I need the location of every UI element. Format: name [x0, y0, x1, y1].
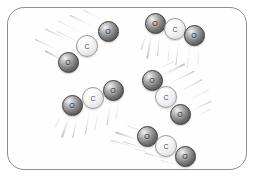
atom-symbol-label: C — [90, 95, 95, 102]
atom-symbol-label: O — [110, 87, 115, 94]
atom-carbon: C — [82, 87, 104, 109]
atom-oxygen: O — [145, 13, 166, 34]
atom-symbol-label: C — [84, 43, 89, 50]
atom-symbol-label: O — [144, 133, 149, 140]
atom-symbol-label: O — [69, 102, 74, 109]
atom-symbol-label: O — [105, 28, 110, 35]
atom-oxygen: O — [170, 104, 191, 125]
atom-carbon: C — [76, 35, 98, 57]
atom-symbol-label: O — [191, 32, 196, 39]
atom-carbon: C — [155, 86, 177, 108]
atom-symbol-label: O — [65, 59, 70, 66]
molecule-diagram-canvas: OCOOCOOCOOCOOCO — [0, 0, 257, 184]
atom-symbol-label: C — [163, 143, 168, 150]
atom-oxygen: O — [62, 95, 83, 116]
atom-oxygen: O — [175, 146, 196, 167]
atom-symbol-label: C — [163, 94, 168, 101]
atom-symbol-label: O — [149, 77, 154, 84]
atom-symbol-label: O — [182, 153, 187, 160]
atom-symbol-label: O — [177, 111, 182, 118]
atom-symbol-label: C — [172, 26, 177, 33]
atom-oxygen: O — [98, 21, 119, 42]
atom-carbon: C — [164, 18, 186, 40]
atom-symbol-label: O — [152, 20, 157, 27]
atom-carbon: C — [155, 135, 177, 157]
atom-oxygen: O — [103, 80, 124, 101]
atom-oxygen: O — [184, 25, 205, 46]
atom-oxygen: O — [58, 52, 79, 73]
